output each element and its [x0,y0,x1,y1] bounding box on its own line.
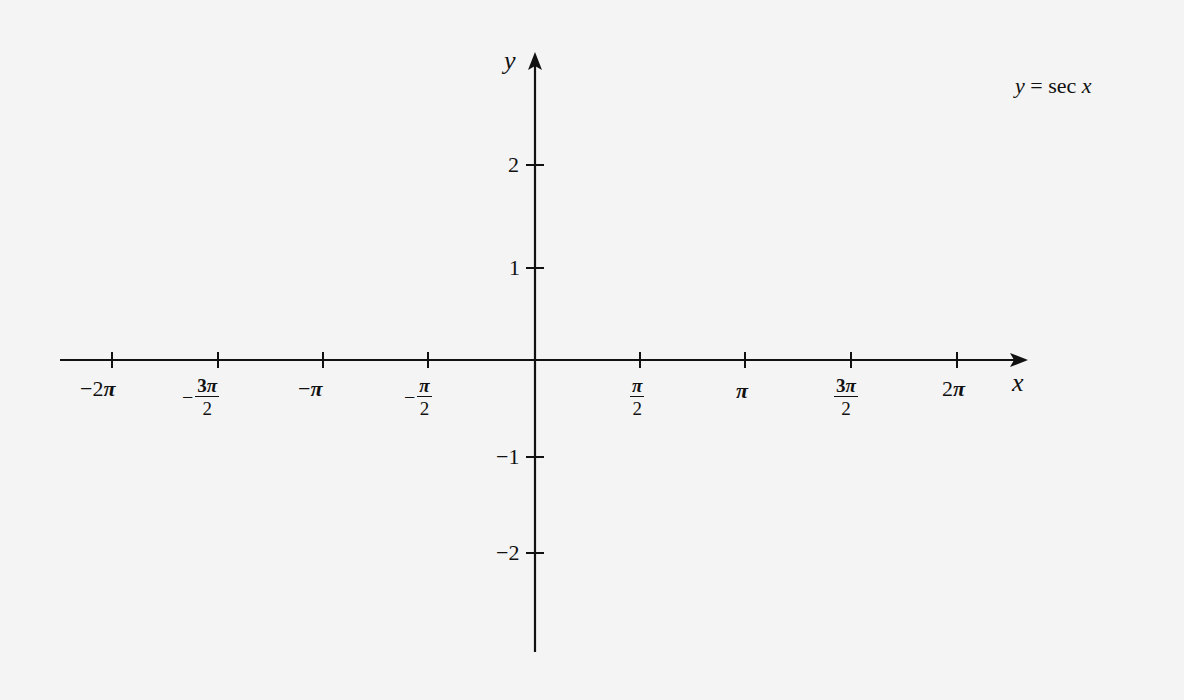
x-tick-3pi-2: 3π2 [834,376,858,418]
x-tick-neg-2pi: −2π [80,378,115,400]
y-tick-1: 1 [509,257,520,279]
y-tick-neg1: −1 [496,446,519,468]
chart-title: y = sec x [1015,73,1092,99]
x-tick-neg-3pi-2: − 3π2 [182,376,219,418]
x-tick-pi: π [736,380,748,402]
y-axis-label: y [504,48,516,74]
x-tick-pi-2: π2 [630,376,644,418]
x-tick-2pi: 2π [942,378,965,400]
y-tick-2: 2 [508,154,519,176]
x-axis-label: x [1012,370,1024,396]
x-tick-neg-pi: −π [298,378,322,400]
x-tick-neg-pi-2: − π2 [404,376,432,418]
y-tick-neg2: −2 [496,542,519,564]
axes [0,0,1184,700]
